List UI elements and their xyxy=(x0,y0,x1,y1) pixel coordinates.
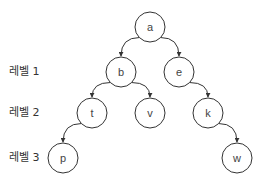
nodes-group: abetvkpw xyxy=(48,12,252,173)
node-w: w xyxy=(222,143,252,173)
node-p: p xyxy=(48,143,78,173)
node-label: b xyxy=(118,66,124,78)
node-k: k xyxy=(193,98,223,128)
edge-k-w xyxy=(219,124,238,143)
node-label: a xyxy=(147,21,154,33)
edge-b-v xyxy=(132,83,151,98)
node-label: k xyxy=(205,107,211,119)
node-e: e xyxy=(164,57,194,87)
tree-diagram: abetvkpw xyxy=(0,0,269,190)
node-a: a xyxy=(135,12,165,42)
edge-a-e xyxy=(161,38,180,57)
node-label: v xyxy=(147,107,153,119)
node-v: v xyxy=(135,98,165,128)
node-label: e xyxy=(176,66,182,78)
node-label: w xyxy=(232,152,241,164)
node-label: t xyxy=(90,107,93,119)
node-label: p xyxy=(60,152,66,164)
edge-a-b xyxy=(121,38,140,57)
edge-b-t xyxy=(92,83,111,98)
node-t: t xyxy=(77,98,107,128)
edge-t-p xyxy=(63,124,82,143)
edge-e-k xyxy=(190,83,209,98)
node-b: b xyxy=(106,57,136,87)
